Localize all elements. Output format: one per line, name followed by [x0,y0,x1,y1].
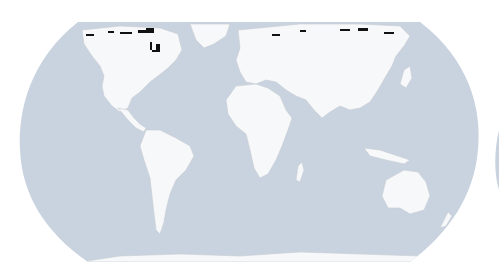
world-map [0,0,499,276]
adjacent-map-edge [495,130,499,190]
